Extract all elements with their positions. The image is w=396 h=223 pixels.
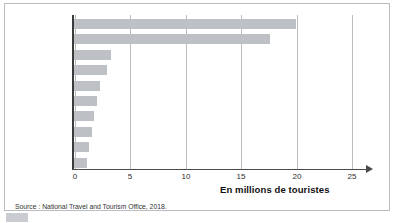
x-tick-label-10: 10 xyxy=(173,172,199,181)
x-tick-label-20: 20 xyxy=(284,172,310,181)
x-tick-label-0: 0 xyxy=(62,172,88,181)
x-tick-label-25: 25 xyxy=(339,172,365,181)
bar-mexique xyxy=(74,34,270,44)
x-axis-title: En millions de touristes xyxy=(220,184,330,195)
x-axis-arrow-icon xyxy=(366,165,373,173)
bar-france xyxy=(74,142,89,152)
bar-bresil xyxy=(74,111,94,121)
bottom-strip xyxy=(0,212,396,223)
x-tick-label-5: 5 xyxy=(117,172,143,181)
bar-coree-du-sud xyxy=(74,96,97,106)
bar-australie xyxy=(74,158,87,168)
bar-royaume-uni xyxy=(74,50,111,60)
source-note: Source : National Travel and Tourism Off… xyxy=(15,203,167,210)
bar-canada xyxy=(74,19,296,29)
x-axis-line xyxy=(72,169,367,170)
bottom-swatch xyxy=(6,213,28,222)
plot-area: Canada Mexique Royaume-Uni Japon Chine xyxy=(5,4,391,212)
y-axis-line xyxy=(72,15,74,170)
bar-japon xyxy=(74,65,107,75)
chart-frame: Canada Mexique Royaume-Uni Japon Chine xyxy=(4,3,390,211)
chart-figure: Canada Mexique Royaume-Uni Japon Chine xyxy=(0,0,396,223)
x-tick-label-15: 15 xyxy=(228,172,254,181)
bar-chine xyxy=(74,81,100,91)
bar-allemagne xyxy=(74,127,92,137)
